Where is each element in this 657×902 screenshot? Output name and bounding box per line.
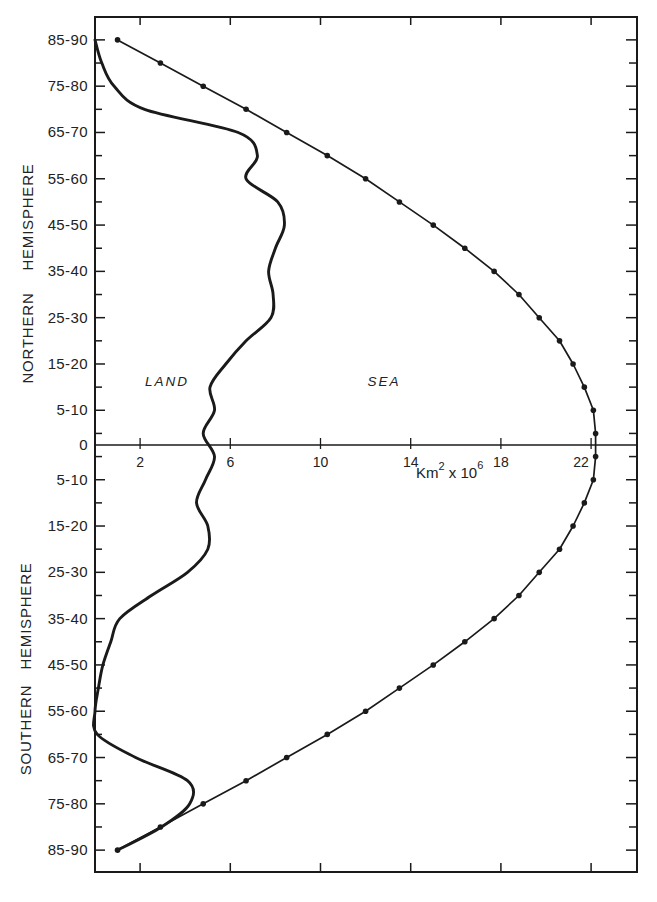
hemisphere-word: HEMISPHERE — [17, 562, 34, 669]
data-point-dot — [536, 570, 542, 576]
y-tick-label-south: 55-60 — [48, 702, 88, 719]
unit-multiplier: x 10 — [445, 464, 478, 481]
data-point-dot — [557, 546, 563, 552]
data-point-dot — [324, 153, 330, 159]
land-region-label: LAND — [145, 374, 189, 389]
x-tick-label: 10 — [313, 454, 329, 470]
data-point-dot — [284, 755, 290, 761]
data-point-dot — [284, 130, 290, 136]
y-tick-label-north: 15-20 — [48, 355, 88, 372]
data-point-dot — [200, 83, 206, 89]
data-point-dot — [536, 315, 542, 321]
data-point-dot — [591, 477, 597, 483]
y-tick-label-south: 5-10 — [56, 471, 88, 488]
x-tick-label: 22 — [573, 454, 589, 470]
southern-hemisphere-label: SOUTHERN HEMISPHERE — [17, 562, 34, 775]
hemisphere-word: HEMISPHERE — [19, 163, 36, 270]
equator-label: 0 — [79, 436, 88, 453]
y-tick-label-north: 5-10 — [56, 401, 88, 418]
y-tick-label-north: 45-50 — [48, 216, 88, 233]
data-point-dot — [115, 37, 121, 43]
northern-hemisphere-label: NORTHERN HEMISPHERE — [19, 163, 36, 383]
y-tick-label-north: 35-40 — [48, 262, 88, 279]
data-point-dot — [363, 176, 369, 182]
unit-base: Km — [416, 464, 439, 481]
y-tick-label-north: 75-80 — [48, 77, 88, 94]
data-point-dot — [591, 407, 597, 413]
y-tick-label-south: 35-40 — [48, 610, 88, 627]
data-point-dot — [491, 269, 497, 275]
data-point-dot — [158, 60, 164, 66]
data-point-dot — [593, 431, 599, 437]
sea-region-label: SEA — [367, 374, 400, 389]
y-tick-label-north: 65-70 — [48, 123, 88, 140]
y-tick-label-north: 55-60 — [48, 170, 88, 187]
y-tick-label-south: 25-30 — [48, 563, 88, 580]
data-point-dot — [324, 732, 330, 738]
data-point-dot — [491, 616, 497, 622]
data-point-dot — [430, 662, 436, 668]
data-point-dot — [243, 107, 249, 113]
data-point-dot — [582, 384, 588, 390]
data-point-dot — [516, 292, 522, 298]
y-tick-label-south: 65-70 — [48, 749, 88, 766]
data-point-dot — [516, 593, 522, 599]
x-tick-label: 18 — [493, 454, 509, 470]
x-tick-label: 2 — [136, 454, 144, 470]
data-point-dot — [363, 708, 369, 714]
x-tick-label: 6 — [226, 454, 234, 470]
data-point-dot — [570, 361, 576, 367]
y-tick-label-north: 85-90 — [48, 31, 88, 48]
y-tick-label-south: 85-90 — [48, 841, 88, 858]
y-tick-label-south: 75-80 — [48, 795, 88, 812]
data-point-dot — [570, 523, 576, 529]
data-point-dot — [462, 245, 468, 251]
data-point-dot — [557, 338, 563, 344]
northern-word: NORTHERN — [19, 292, 36, 383]
data-point-dot — [582, 500, 588, 506]
land-sea-area-by-latitude-chart: 85-9075-8065-7055-6045-5035-4025-3015-20… — [0, 0, 657, 902]
data-point-dot — [243, 778, 249, 784]
y-tick-label-south: 45-50 — [48, 656, 88, 673]
data-point-dot — [430, 222, 436, 228]
chart-canvas: 85-9075-8065-7055-6045-5035-4025-3015-20… — [0, 0, 657, 902]
data-point-dot — [397, 199, 403, 205]
x-axis-unit-label: Km2 x 106 — [416, 459, 483, 481]
y-tick-label-south: 15-20 — [48, 517, 88, 534]
unit-exponent-6: 6 — [477, 459, 483, 471]
data-point-dot — [462, 639, 468, 645]
x-axis-tick-labels: 2610141822 — [136, 454, 589, 470]
southern-word: SOUTHERN — [17, 685, 34, 776]
plot-frame — [95, 17, 637, 872]
data-point-dot — [200, 801, 206, 807]
data-point-dot — [593, 454, 599, 460]
data-point-dot — [397, 685, 403, 691]
y-tick-label-north: 25-30 — [48, 309, 88, 326]
